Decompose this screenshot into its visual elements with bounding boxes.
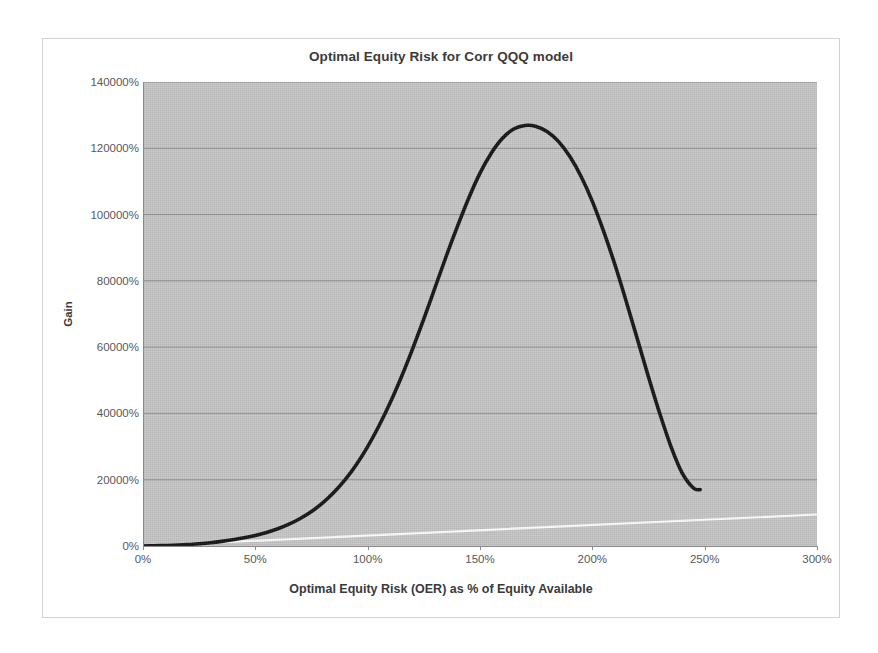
plot-canvas	[143, 82, 817, 546]
y-axis-tick-labels: 0%20000%40000%60000%80000%100000%120000%…	[43, 82, 139, 546]
x-tick-label: 200%	[578, 553, 607, 565]
x-tick-mark	[255, 546, 256, 550]
y-tick-label: 80000%	[47, 275, 139, 287]
x-tick-label: 150%	[465, 553, 494, 565]
y-tick-label: 60000%	[47, 341, 139, 353]
y-tick-label: 120000%	[47, 142, 139, 154]
x-tick-mark	[592, 546, 593, 550]
x-axis-tick-labels: 0%50%100%150%200%250%300%	[143, 553, 817, 571]
gridlines	[143, 82, 817, 480]
x-tick-mark	[817, 546, 818, 550]
series-reference-line	[143, 515, 817, 546]
x-tick-mark	[143, 546, 144, 550]
y-tick-label: 100000%	[47, 209, 139, 221]
chart-title: Optimal Equity Risk for Corr QQQ model	[43, 49, 839, 64]
y-tick-label: 140000%	[47, 76, 139, 88]
x-axis-title: Optimal Equity Risk (OER) as % of Equity…	[43, 582, 839, 596]
y-tick-label: 0%	[47, 540, 139, 552]
y-axis-line	[143, 82, 144, 547]
series-gain-curve	[143, 125, 700, 546]
x-tick-label: 300%	[802, 553, 831, 565]
x-tick-label: 50%	[244, 553, 267, 565]
x-tick-label: 250%	[690, 553, 719, 565]
y-tick-label: 20000%	[47, 474, 139, 486]
x-tick-label: 100%	[353, 553, 382, 565]
x-tick-mark	[705, 546, 706, 550]
y-tick-label: 40000%	[47, 407, 139, 419]
chart-frame: Optimal Equity Risk for Corr QQQ model G…	[42, 38, 840, 618]
x-tick-label: 0%	[135, 553, 152, 565]
plot-area	[143, 82, 817, 546]
x-tick-mark	[368, 546, 369, 550]
chart-page: { "chart_data": { "type": "line", "title…	[0, 0, 878, 653]
x-tick-mark	[480, 546, 481, 550]
